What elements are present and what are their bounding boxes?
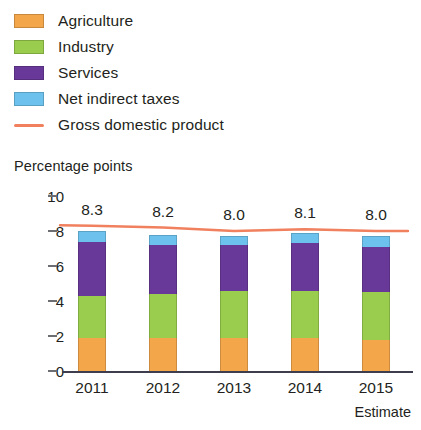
estimate-note: Estimate <box>355 404 411 420</box>
gdp-line-path <box>60 225 408 231</box>
x-axis-tick-label: 2013 <box>202 379 266 397</box>
x-axis-tick-label: 2011 <box>60 379 124 397</box>
bar-value-label: 8.0 <box>349 206 403 224</box>
bar-value-label: 8.2 <box>136 203 190 221</box>
chart-plot-area: 0246810 8.38.28.08.18.0 2011201220132014… <box>0 0 421 430</box>
x-axis-tick-label: 2015 <box>344 379 408 397</box>
bar-value-label: 8.0 <box>207 206 261 224</box>
bar-value-label: 8.3 <box>65 201 119 219</box>
bar-value-label: 8.1 <box>278 204 332 222</box>
x-axis-tick-label: 2014 <box>273 379 337 397</box>
x-axis-tick-label: 2012 <box>131 379 195 397</box>
